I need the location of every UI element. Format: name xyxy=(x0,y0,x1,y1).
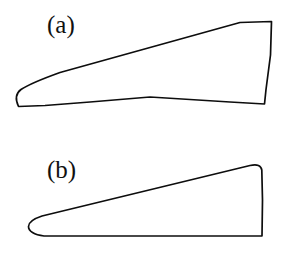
panel-label-a: (a) xyxy=(47,12,75,37)
panel-label-b: (b) xyxy=(47,157,76,182)
figure-panel-b: (b) xyxy=(0,130,286,257)
figure-panel-a: (a) xyxy=(0,0,286,130)
airfoil-outline-b-svg xyxy=(0,130,286,257)
figure-container: (a) (b) xyxy=(0,0,286,257)
airfoil-outline-a-svg xyxy=(0,0,286,130)
